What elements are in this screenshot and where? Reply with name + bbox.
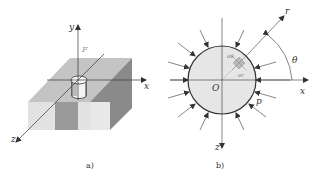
r-axis-label: r bbox=[285, 6, 290, 16]
theta-arc bbox=[268, 35, 292, 80]
x-axis-b-label: x bbox=[300, 86, 305, 96]
block-front-mid-face bbox=[55, 102, 78, 130]
x-axis-label: x bbox=[144, 81, 149, 91]
theta-label: θ bbox=[292, 55, 298, 65]
y-axis-label: y bbox=[68, 22, 75, 32]
origin-label: O bbox=[212, 83, 220, 93]
z-axis-label: z bbox=[10, 134, 16, 144]
caption-a: a) bbox=[86, 161, 94, 170]
z-axis-b-label: z bbox=[214, 142, 220, 152]
force-label: F bbox=[81, 45, 88, 54]
block-front-right-face bbox=[78, 102, 90, 130]
figure-a: y x z F a) bbox=[10, 22, 149, 170]
figure-b: σθ σr O r θ x z p b) bbox=[168, 6, 308, 170]
r-axis bbox=[248, 16, 284, 54]
block-right-inner-face bbox=[90, 102, 110, 130]
sigma-theta-label: σθ bbox=[227, 53, 233, 59]
pressure-label: p bbox=[256, 96, 262, 106]
caption-b: b) bbox=[216, 161, 224, 170]
sigma-r-label: σr bbox=[238, 72, 244, 78]
diagram-canvas: y x z F a) bbox=[0, 0, 312, 185]
